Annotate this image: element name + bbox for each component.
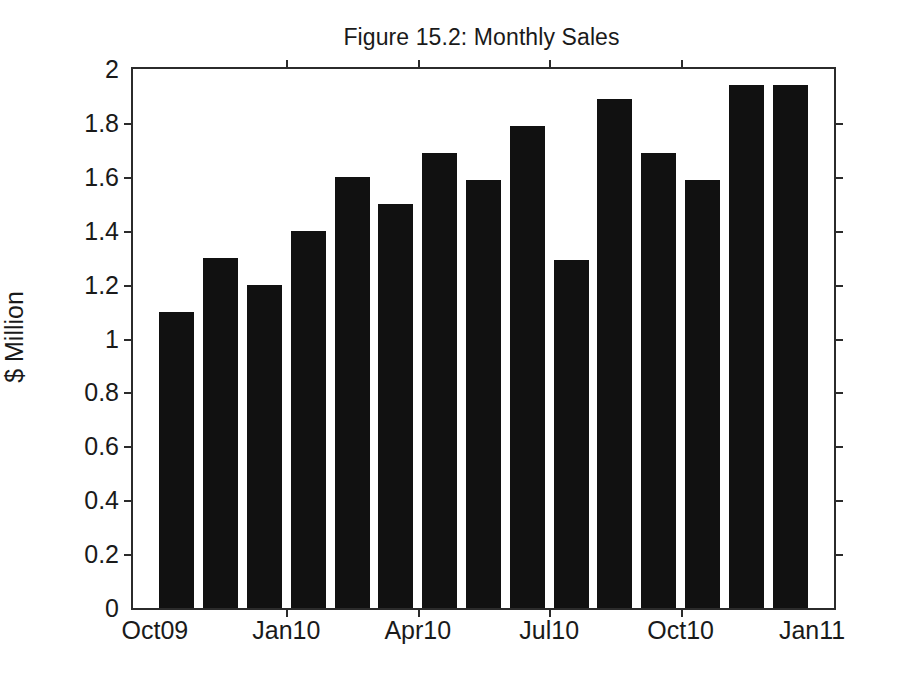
- y-tick-mark-right: [834, 554, 843, 556]
- y-tick-label: 1.8: [84, 110, 119, 135]
- x-tick-label: Oct09: [122, 618, 189, 643]
- bar: [378, 204, 413, 608]
- y-tick-label: 0.4: [84, 488, 119, 513]
- bar: [597, 99, 632, 608]
- y-tick-label: 0: [105, 596, 119, 621]
- y-tick-mark-right: [834, 177, 843, 179]
- y-tick-label: 0.2: [84, 542, 119, 567]
- y-tick-mark-right: [834, 285, 843, 287]
- chart-figure: Figure 15.2: Monthly Sales $ Million 00.…: [0, 0, 915, 675]
- y-tick-mark: [124, 177, 133, 179]
- plot-area: 00.20.40.60.811.21.41.61.82Oct09Jan10Apr…: [131, 67, 836, 610]
- bars-layer: [133, 69, 834, 608]
- y-tick-mark: [124, 500, 133, 502]
- x-tick-label: Jul10: [519, 618, 579, 643]
- x-tick-mark-top: [549, 60, 551, 69]
- y-tick-mark: [124, 231, 133, 233]
- x-tick-mark-top: [418, 60, 420, 69]
- bar: [159, 312, 194, 608]
- bar: [641, 153, 676, 608]
- y-tick-label: 1: [105, 326, 119, 351]
- x-tick-label: Apr10: [384, 618, 451, 643]
- bar: [335, 177, 370, 608]
- y-tick-mark-right: [834, 446, 843, 448]
- y-tick-mark-right: [834, 123, 843, 125]
- bar: [466, 180, 501, 609]
- y-tick-mark: [124, 123, 133, 125]
- bar: [773, 85, 808, 608]
- x-tick-mark-top: [286, 60, 288, 69]
- x-tick-label: Jan10: [252, 618, 320, 643]
- bar: [422, 153, 457, 608]
- bar: [291, 231, 326, 608]
- y-axis-title: $ Million: [0, 291, 29, 383]
- bar: [729, 85, 764, 608]
- y-tick-label: 1.4: [84, 218, 119, 243]
- bar: [685, 180, 720, 609]
- x-tick-label: Jan11: [779, 618, 845, 643]
- y-tick-mark: [124, 285, 133, 287]
- x-tick-mark-top: [681, 60, 683, 69]
- bar: [203, 258, 238, 608]
- chart-title: Figure 15.2: Monthly Sales: [131, 24, 832, 51]
- y-tick-mark: [124, 554, 133, 556]
- x-tick-label: Oct10: [647, 618, 714, 643]
- y-tick-label: 0.6: [84, 434, 119, 459]
- y-tick-mark-right: [834, 339, 843, 341]
- y-tick-mark: [124, 339, 133, 341]
- bar: [510, 126, 545, 608]
- bar: [554, 260, 589, 608]
- y-tick-mark-right: [834, 392, 843, 394]
- bar: [247, 285, 282, 608]
- y-tick-mark-right: [834, 231, 843, 233]
- y-tick-label: 1.6: [84, 164, 119, 189]
- y-tick-label: 0.8: [84, 380, 119, 405]
- y-tick-mark: [124, 446, 133, 448]
- y-tick-label: 2: [105, 57, 119, 82]
- y-tick-mark-right: [834, 500, 843, 502]
- y-tick-label: 1.2: [84, 272, 119, 297]
- y-tick-mark: [124, 392, 133, 394]
